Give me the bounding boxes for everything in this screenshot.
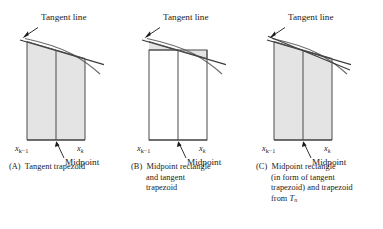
caption-line: (B) Midpoint rectangle: [131, 162, 257, 173]
caption-line: (in form of tangent: [256, 173, 382, 184]
x-left-label: xk−1: [14, 144, 28, 154]
panel-c: Tangent line xk−1 xk Midpoint (C) Midpoi…: [247, 0, 375, 229]
caption-line: trapezoid) and trapezoid: [256, 183, 382, 194]
x-right-label: xk: [323, 144, 331, 154]
tangent-label-arrowhead: [23, 31, 29, 38]
panel-b-graphic: Tangent line xk−1 xk Midpoint: [122, 0, 250, 160]
caption-line: (C) Midpoint rectangle: [256, 162, 382, 173]
tangent-line-label: Tangent line: [41, 12, 87, 22]
panel-b-caption: (B) Midpoint rectangle and tangent trape…: [131, 162, 257, 194]
x-left-label: xk−1: [261, 144, 275, 154]
panel-tag: (A): [9, 162, 21, 171]
caption-line: (A) Tangent trapezoid: [9, 162, 135, 173]
caption-text: Midpoint rectangle: [146, 162, 210, 171]
x-right-label: xk: [76, 144, 84, 154]
figure-root: Tangent line xk−1 xk Midpoint (A) Tangen…: [0, 0, 383, 229]
tangent-line-segment: [142, 40, 226, 65]
x-left-label: xk−1: [136, 144, 150, 154]
caption-line: and tangent: [131, 173, 257, 184]
panel-b: Tangent line xk−1 xk Midpoint (B) Midpoi…: [122, 0, 250, 229]
panel-tag: (B): [131, 162, 142, 171]
panel-a-graphic: Tangent line xk−1 xk Midpoint: [0, 0, 128, 160]
panel-a-caption: (A) Tangent trapezoid: [9, 162, 135, 173]
tangent-label-arrowhead: [270, 31, 276, 38]
tn-subscript: n: [294, 197, 297, 203]
caption-line-last: from Tn: [256, 194, 382, 206]
tangent-line-label: Tangent line: [288, 12, 334, 22]
caption-text: Midpoint rectangle: [271, 162, 335, 171]
caption-text: Tangent trapezoid: [25, 162, 85, 171]
x-right-label: xk: [198, 144, 206, 154]
tangent-label-arrowhead: [145, 31, 151, 38]
panel-tag: (C): [256, 162, 267, 171]
tangent-line-label: Tangent line: [163, 12, 209, 22]
panel-a: Tangent line xk−1 xk Midpoint (A) Tangen…: [0, 0, 128, 229]
caption-line: trapezoid: [131, 183, 257, 194]
panel-c-graphic: Tangent line xk−1 xk Midpoint: [247, 0, 375, 160]
panel-c-caption: (C) Midpoint rectangle (in form of tange…: [256, 162, 382, 206]
